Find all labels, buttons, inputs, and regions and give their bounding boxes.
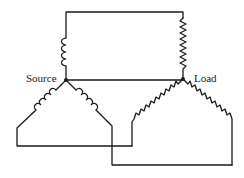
load-left-phase — [132, 79, 183, 146]
inductor-top-icon — [62, 38, 67, 66]
wire-top — [66, 12, 183, 38]
top-phase — [62, 12, 187, 80]
resistor-right-icon — [183, 79, 232, 165]
inductor-right-icon — [76, 89, 97, 110]
load-right-phase — [183, 79, 232, 165]
resistor-top-icon — [180, 18, 186, 79]
wye-wye-circuit-diagram — [0, 0, 244, 178]
wire-source-left-lower — [17, 110, 132, 146]
source-neutral-node — [64, 78, 68, 82]
wire-source-left-upper — [56, 80, 66, 90]
wire-source-right-upper — [66, 80, 76, 90]
resistor-left-icon — [132, 79, 183, 146]
load-label: Load — [194, 73, 217, 84]
source-left-phase — [17, 80, 132, 146]
load-neutral-node — [181, 77, 185, 81]
wire-source-right-lower — [96, 110, 232, 165]
inductor-left-icon — [35, 89, 56, 110]
source-right-phase — [66, 80, 232, 165]
source-label: Source — [26, 73, 57, 84]
